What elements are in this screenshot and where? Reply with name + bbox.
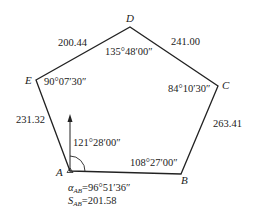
angle-arc-a — [70, 156, 85, 171]
point-label-c: C — [222, 80, 229, 91]
side-length-cd: 241.00 — [171, 37, 200, 48]
distance-ab: SAB=201.58 — [68, 196, 117, 208]
north-arrow-head — [68, 114, 73, 122]
angle-b: 108°27′00″ — [130, 158, 178, 169]
side-length-bc: 263.41 — [213, 119, 242, 130]
side-length-ea: 231.32 — [16, 115, 45, 126]
distance-subscript: AB — [73, 200, 82, 208]
angle-a: 121°28′00″ — [73, 138, 121, 149]
point-label-e: E — [25, 75, 32, 86]
azimuth-ab: αAB=96°51′36″ — [68, 183, 130, 195]
angle-c: 84°10′30″ — [168, 84, 210, 95]
distance-value: =201.58 — [82, 195, 117, 206]
point-label-a: A — [56, 167, 63, 178]
azimuth-value: =96°51′36″ — [82, 182, 130, 193]
point-label-b: B — [181, 175, 188, 186]
side-length-de: 200.44 — [58, 38, 87, 49]
angle-e: 90°07′30″ — [44, 77, 86, 88]
traverse-diagram: D E C A B 200.44 241.00 231.32 263.41 13… — [0, 0, 254, 220]
azimuth-subscript: AB — [74, 187, 83, 195]
point-label-d: D — [126, 13, 134, 24]
angle-d: 135°48′00″ — [105, 47, 153, 58]
